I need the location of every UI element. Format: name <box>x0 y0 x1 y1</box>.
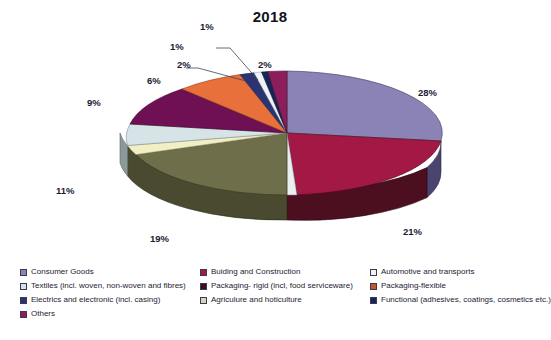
pie-label-2b: 2% <box>258 60 272 70</box>
legend-swatch-icon-textiles <box>20 283 27 290</box>
pie-label-19: 19% <box>150 234 169 244</box>
legend-swatch-icon-functional <box>370 297 377 304</box>
legend-swatch-icon-automotive-transports <box>370 269 377 276</box>
legend-item-textiles[interactable]: Textiles (incl. woven, non-woven and fib… <box>20 282 186 290</box>
legend-swatch-icon-packaging-rigid <box>200 283 207 290</box>
pie-label-1b: 1% <box>200 22 214 32</box>
legend-swatch-icon-building-construction <box>200 269 207 276</box>
pie-label-21: 21% <box>403 227 422 237</box>
legend-item-automotive-transports[interactable]: Automotive and transports <box>370 268 474 276</box>
legend-swatch-icon-electrics-electronic <box>20 297 27 304</box>
legend-label-textiles: Textiles (incl. woven, non-woven and fib… <box>31 282 186 290</box>
legend-label-packaging-rigid: Packaging- rigid (incl, food serviceware… <box>211 282 353 290</box>
legend-label-building-construction: Buiding and Construction <box>211 268 300 276</box>
chart-legend: Consumer Goods Textiles (incl. woven, no… <box>20 268 528 330</box>
legend-item-functional[interactable]: Functional (adhesives, coatings, cosmeti… <box>370 296 551 304</box>
pie-label-28: 28% <box>418 88 437 98</box>
legend-item-packaging-flexible[interactable]: Packaging-flexible <box>370 282 446 290</box>
pie-label-6: 6% <box>147 76 161 86</box>
legend-swatch-icon-others <box>20 311 27 318</box>
legend-label-consumer-goods: Consumer Goods <box>31 268 94 276</box>
pie-top-slices <box>126 71 442 195</box>
legend-item-packaging-rigid[interactable]: Packaging- rigid (incl, food serviceware… <box>200 282 353 290</box>
legend-item-building-construction[interactable]: Buiding and Construction <box>200 268 300 276</box>
pie-label-2a: 2% <box>177 60 191 70</box>
legend-label-automotive-transports: Automotive and transports <box>381 268 474 276</box>
legend-item-electrics-electronic[interactable]: Electrics and electronic (incl. casing) <box>20 296 160 304</box>
legend-swatch-icon-packaging-flexible <box>370 283 377 290</box>
legend-item-agriculture-horticulture[interactable]: Agriculure and hoticulture <box>200 296 302 304</box>
legend-item-others[interactable]: Others <box>20 310 55 318</box>
chart-title: 2018 <box>0 8 540 25</box>
pie-slice-consumer-goods <box>287 71 442 141</box>
pie-label-11: 11% <box>56 186 75 196</box>
legend-label-packaging-flexible: Packaging-flexible <box>381 282 446 290</box>
legend-swatch-icon-agriculture-horticulture <box>200 297 207 304</box>
legend-label-agriculture-horticulture: Agriculure and hoticulture <box>211 296 302 304</box>
legend-swatch-icon-consumer-goods <box>20 269 27 276</box>
legend-label-functional: Functional (adhesives, coatings, cosmeti… <box>381 296 551 304</box>
legend-label-electrics-electronic: Electrics and electronic (incl. casing) <box>31 296 160 304</box>
legend-label-others: Others <box>31 310 55 318</box>
pie-chart-plot: 28% 21% 19% 11% 9% 6% 2% 1% 1% 2% <box>58 28 482 254</box>
legend-item-consumer-goods[interactable]: Consumer Goods <box>20 268 94 276</box>
pie-label-9: 9% <box>87 98 101 108</box>
pie-label-1a: 1% <box>170 42 184 52</box>
